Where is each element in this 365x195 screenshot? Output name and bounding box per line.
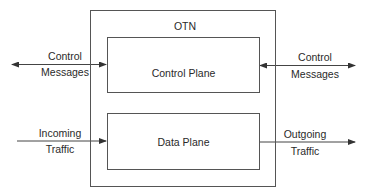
outgoing-traffic-label-2: Traffic [270, 145, 340, 158]
control-plane-block [107, 37, 260, 93]
incoming-traffic-label-1: Incoming [25, 127, 95, 140]
data-plane-label: Data Plane [107, 136, 260, 149]
left-control-label-1: Control [30, 50, 100, 63]
otn-label: OTN [165, 20, 205, 33]
right-control-label-2: Messages [280, 68, 350, 81]
right-control-label-1: Control [280, 51, 350, 64]
incoming-traffic-label-2: Traffic [25, 143, 95, 156]
control-plane-label: Control Plane [107, 67, 260, 80]
left-control-label-2: Messages [30, 66, 100, 79]
outgoing-traffic-label-1: Outgoing [270, 128, 340, 141]
